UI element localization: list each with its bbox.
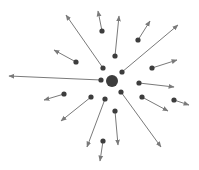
node-dot: [100, 65, 105, 70]
vector-arrow: [115, 16, 119, 56]
node-dot: [119, 69, 124, 74]
node-dot: [149, 65, 154, 70]
node-dot: [135, 37, 140, 42]
node-dot: [136, 80, 141, 85]
vector-arrow: [115, 111, 118, 145]
node-dot: [98, 77, 103, 82]
vector-arrow: [100, 141, 103, 161]
node-dot: [118, 89, 123, 94]
vector-arrow: [122, 25, 178, 72]
vector-arrow: [98, 11, 102, 31]
node-dot: [100, 138, 105, 143]
node-dot: [99, 28, 104, 33]
node-dot: [88, 94, 93, 99]
vector-arrow: [152, 60, 177, 68]
vector-arrow: [54, 50, 76, 62]
vector-arrow: [142, 97, 168, 111]
node-dot: [139, 94, 144, 99]
node-dot: [61, 91, 66, 96]
vector-arrow: [139, 83, 174, 87]
node-dot: [102, 96, 107, 101]
node-dot: [73, 59, 78, 64]
vector-arrow: [138, 21, 150, 40]
vector-arrow: [61, 97, 91, 121]
vector-arrow: [44, 94, 64, 100]
node-dot: [112, 108, 117, 113]
node-dot: [171, 97, 176, 102]
center-node: [106, 75, 118, 87]
vector-arrow: [9, 76, 101, 80]
vector-group: [9, 11, 189, 161]
radial-arrow-diagram: [0, 0, 199, 170]
vector-arrow: [121, 92, 161, 147]
node-dot: [112, 53, 117, 58]
